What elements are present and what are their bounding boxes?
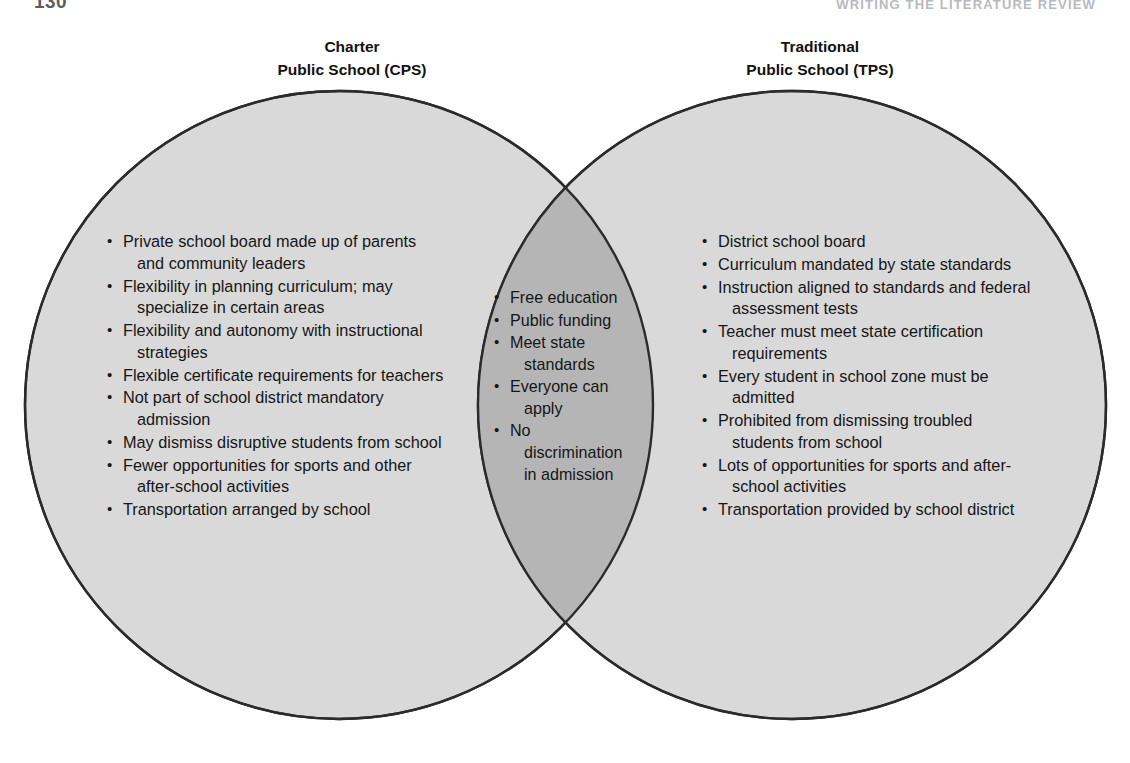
list-item-label: Lots of opportunities for sports and aft… [718,455,1032,499]
list-item: Not part of school district mandatory ad… [107,387,447,431]
list-item-label: Flexibility and autonomy with instructio… [123,320,447,364]
list-item-label: Not part of school district mandatory ad… [123,387,447,431]
page-canvas: 130 WRITING THE LITERATURE REVIEW Charte… [0,0,1130,763]
list-item: Everyone can apply [494,376,620,419]
list-item: Every student in school zone must be adm… [702,366,1032,410]
list-item-label: District school board [718,231,1032,253]
list-item: Public funding [494,310,620,332]
list-item-label: Flexibility in planning curriculum; may … [123,276,447,320]
list-item: Flexible certificate requirements for te… [107,365,447,387]
list-item: Instruction aligned to standards and fed… [702,277,1032,321]
list-item-label: Instruction aligned to standards and fed… [718,277,1032,321]
venn-intersection-item-list: Free educationPublic fundingMeet state s… [494,287,620,486]
list-item-label: Meet state standards [510,332,620,375]
venn-left-title: Charter Public School (CPS) [278,36,427,82]
list-item-label: Transportation arranged by school [123,499,447,521]
list-item: Curriculum mandated by state standards [702,254,1032,276]
venn-right-item-list: District school boardCurriculum mandated… [702,231,1032,522]
list-item: District school board [702,231,1032,253]
venn-left-title-line-1: Charter [278,36,427,59]
list-item: Private school board made up of parents … [107,231,447,275]
list-item: No discrimination in admission [494,420,620,485]
venn-right-title-line-1: Traditional [746,36,893,59]
venn-left-title-line-2: Public School (CPS) [278,59,427,82]
venn-right-title-line-2: Public School (TPS) [746,59,893,82]
list-item: Meet state standards [494,332,620,375]
list-item-label: No discrimination in admission [510,420,620,485]
list-item-label: Flexible certificate requirements for te… [123,365,447,387]
venn-right-title: Traditional Public School (TPS) [746,36,893,82]
list-item-label: Public funding [510,310,620,332]
list-item-label: Everyone can apply [510,376,620,419]
list-item: Prohibited from dismissing troubled stud… [702,410,1032,454]
list-item-label: Transportation provided by school distri… [718,499,1032,521]
list-item: Flexibility and autonomy with instructio… [107,320,447,364]
list-item: Lots of opportunities for sports and aft… [702,455,1032,499]
list-item-label: Prohibited from dismissing troubled stud… [718,410,1032,454]
list-item: Transportation arranged by school [107,499,447,521]
list-item-label: Free education [510,287,620,309]
list-item: Transportation provided by school distri… [702,499,1032,521]
venn-left-item-list: Private school board made up of parents … [107,231,447,522]
list-item-label: Fewer opportunities for sports and other… [123,455,447,499]
list-item: Flexibility in planning curriculum; may … [107,276,447,320]
list-item: Free education [494,287,620,309]
list-item-label: Every student in school zone must be adm… [718,366,1032,410]
list-item: May dismiss disruptive students from sch… [107,432,447,454]
list-item-label: May dismiss disruptive students from sch… [123,432,447,454]
list-item-label: Curriculum mandated by state standards [718,254,1032,276]
list-item-label: Teacher must meet state certification re… [718,321,1032,365]
list-item: Teacher must meet state certification re… [702,321,1032,365]
list-item-label: Private school board made up of parents … [123,231,447,275]
list-item: Fewer opportunities for sports and other… [107,455,447,499]
